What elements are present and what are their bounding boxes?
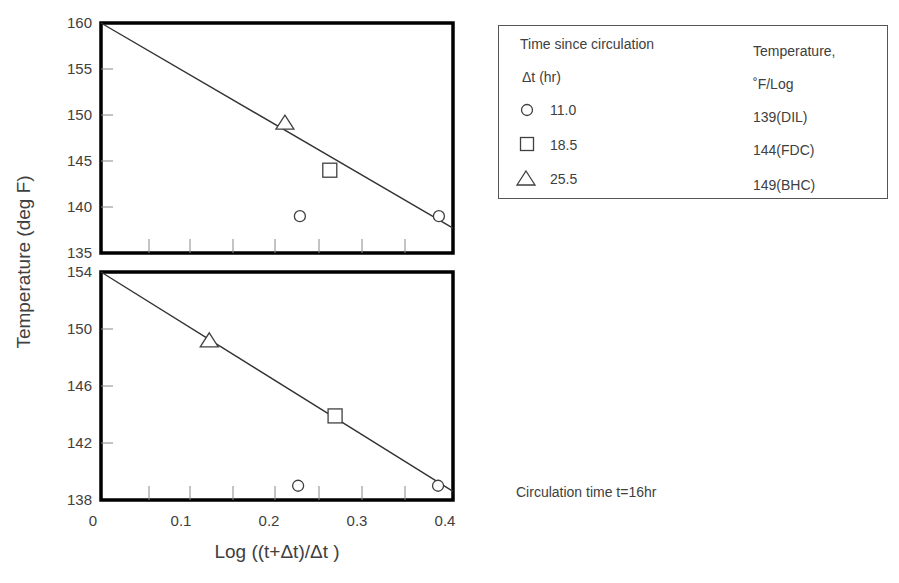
legend-col2-header: Temperature, — [753, 43, 835, 59]
y-tick-label: 140 — [67, 198, 92, 215]
circle-marker — [294, 211, 305, 222]
legend-row-dt: 25.5 — [550, 171, 577, 187]
circle-marker — [433, 211, 444, 222]
circle-marker — [293, 480, 304, 491]
y-tick-label: 150 — [67, 106, 92, 123]
square-marker — [328, 409, 342, 423]
x-tick-label: 0.3 — [347, 512, 368, 529]
x-axis-title: Log ((t+Δt)/Δt ) — [214, 541, 339, 562]
square-marker — [323, 163, 337, 177]
circulation-time-note: Circulation time t=16hr — [516, 484, 656, 500]
x-tick-label: 0.4 — [435, 512, 456, 529]
legend-row-temp: 149(BHC) — [753, 177, 815, 193]
legend-row-temp: 144(FDC) — [753, 142, 814, 158]
triangle-marker — [276, 115, 294, 129]
y-tick-label: 142 — [67, 434, 92, 451]
legend-box: Time since circulation Δt (hr) Temperatu… — [498, 25, 888, 199]
y-tick-label: 146 — [67, 377, 92, 394]
plot-frame — [101, 23, 453, 253]
y-axis-title: Temperature (deg F) — [13, 175, 34, 348]
y-tick-label: 160 — [67, 14, 92, 31]
legend-col2-subheader: ˚F/Log — [753, 76, 793, 92]
x-tick-labels: 00.10.20.30.4 — [89, 512, 456, 529]
circle-marker-icon — [518, 101, 536, 119]
y-tick-label: 154 — [67, 263, 92, 280]
y-tick-label: 145 — [67, 152, 92, 169]
bottom-plot-panel: 138142146150154 — [67, 263, 453, 508]
y-tick-label: 155 — [67, 60, 92, 77]
x-tick-label: 0 — [89, 512, 97, 529]
legend-row-temp: 139(DIL) — [753, 109, 807, 125]
legend-col1-header: Time since circulation — [520, 36, 654, 52]
plot-frame — [101, 272, 453, 500]
trend-line — [101, 23, 453, 228]
circle-marker — [433, 480, 444, 491]
triangle-marker-icon — [514, 168, 538, 188]
y-tick-label: 138 — [67, 491, 92, 508]
y-tick-label: 150 — [67, 320, 92, 337]
trend-line — [101, 272, 453, 491]
x-tick-label: 0.1 — [171, 512, 192, 529]
x-tick-label: 0.2 — [259, 512, 280, 529]
legend-row-dt: 18.5 — [550, 137, 577, 153]
legend-col1-subheader: Δt (hr) — [522, 69, 561, 85]
square-marker-icon — [518, 135, 536, 153]
legend-row-dt: 11.0 — [550, 102, 576, 118]
y-tick-label: 135 — [67, 244, 92, 261]
top-plot-panel: 135140145150155160 — [67, 14, 453, 261]
